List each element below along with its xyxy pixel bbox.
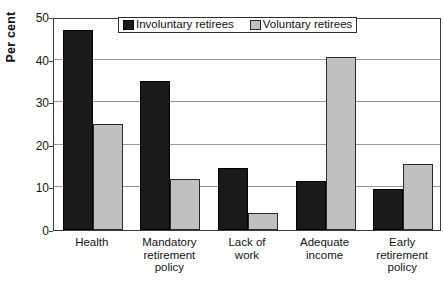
x-axis-category-label-line: work	[208, 249, 286, 262]
bar	[248, 213, 278, 230]
x-axis-category-label-line: retirement	[131, 249, 209, 262]
y-axis-tick-label: 30	[5, 97, 49, 109]
x-axis-category-labels: HealthMandatoryretirementpolicyLack ofwo…	[53, 236, 441, 287]
x-axis-category-label: Earlyretirementpolicy	[363, 236, 441, 274]
x-axis-category-label-line: policy	[131, 261, 209, 274]
chart-legend: Involuntary retireesVoluntary retirees	[118, 17, 357, 33]
x-axis-category-label-line: Adequate	[286, 236, 364, 249]
legend-label: Involuntary retirees	[136, 19, 234, 31]
bar	[63, 30, 93, 230]
legend-entry: Involuntary retirees	[123, 19, 234, 31]
x-axis-category-label: Mandatoryretirementpolicy	[131, 236, 209, 274]
bar-chart: Per cent 50403020100 Involuntary retiree…	[0, 0, 444, 287]
bar-group	[209, 19, 287, 230]
x-axis-category-label-line: Health	[53, 236, 131, 249]
x-axis-category-label-line: retirement	[363, 249, 441, 262]
bar	[93, 124, 123, 231]
legend-label: Voluntary retirees	[263, 19, 353, 31]
bar-group	[364, 19, 442, 230]
bar	[403, 164, 433, 230]
y-axis-tick-label: 20	[5, 140, 49, 152]
x-axis-category-label-line: Lack of	[208, 236, 286, 249]
bar	[296, 181, 326, 230]
bar-group	[132, 19, 210, 230]
y-axis-tick-label: 40	[5, 55, 49, 67]
bar-group	[287, 19, 365, 230]
y-axis-tick-labels: 50403020100	[0, 0, 49, 287]
legend-entry: Voluntary retirees	[250, 19, 353, 31]
bar	[326, 57, 356, 230]
x-axis-category-label: Health	[53, 236, 131, 249]
plot-area	[53, 18, 441, 231]
x-axis-category-label: Lack ofwork	[208, 236, 286, 261]
y-axis-tick-label: 50	[5, 12, 49, 24]
bars-layer	[54, 19, 440, 230]
x-axis-category-label: Adequateincome	[286, 236, 364, 261]
x-axis-category-label-line: Early	[363, 236, 441, 249]
x-axis-category-label-line: Mandatory	[131, 236, 209, 249]
y-axis-tick-label: 10	[5, 182, 49, 194]
bar	[373, 189, 403, 230]
y-axis-tick-mark	[49, 231, 53, 232]
y-axis-tick-label: 0	[5, 225, 49, 237]
bar	[170, 179, 200, 230]
bar	[218, 168, 248, 230]
bar	[140, 81, 170, 230]
light-swatch-icon	[250, 20, 261, 30]
x-axis-category-label-line: income	[286, 249, 364, 262]
bar-group	[54, 19, 132, 230]
x-axis-category-label-line: policy	[363, 261, 441, 274]
dark-swatch-icon	[123, 20, 134, 30]
